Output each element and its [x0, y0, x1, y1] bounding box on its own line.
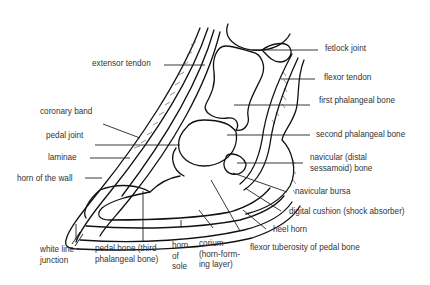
label-laminae: laminae	[48, 153, 77, 164]
label-horn-of-sole-line3: sole	[172, 262, 188, 273]
label-fetlock-joint: fetlock joint	[325, 44, 366, 55]
label-first-phalangeal-bone: first phalangeal bone	[319, 96, 395, 107]
coronary-hair	[134, 42, 296, 194]
label-pedal-bone-line2: phalangeal bone)	[95, 255, 158, 266]
label-heel-horn: heel horn	[273, 225, 307, 236]
label-pedal-bone: pedal bone (third phalangeal bone)	[95, 244, 158, 265]
label-white-line-line2: junction	[40, 256, 74, 267]
sole-layers	[78, 196, 300, 250]
label-white-line-junction: white line junction	[40, 245, 74, 266]
label-coronary-band: coronary band	[40, 107, 92, 118]
label-navicular-bone-line2: sessamoid) bone	[310, 164, 372, 175]
label-digital-cushion: digital cushion (shock absorber)	[289, 207, 405, 218]
label-white-line-line1: white line	[40, 245, 74, 256]
label-horn-of-sole-line1: horn	[172, 241, 188, 252]
first-phalangeal-bone-shape	[205, 46, 263, 130]
label-navicular-bursa: navicular bursa	[295, 187, 351, 198]
label-pedal-joint: pedal joint	[46, 131, 83, 142]
second-phalangeal-bone-shape	[173, 120, 237, 176]
label-navicular-bone: navicular (distal sessamoid) bone	[310, 153, 372, 174]
label-pedal-bone-line1: pedal bone (third	[95, 244, 158, 255]
label-second-phalangeal-bone: second phalangeal bone	[316, 130, 405, 141]
label-navicular-bone-line1: navicular (distal	[310, 153, 372, 164]
label-extensor-tendon: extensor tendon	[92, 59, 151, 70]
label-flexor-tendon: flexor tendon	[324, 73, 371, 84]
label-horn-of-sole: horn of sole	[172, 241, 188, 273]
label-flexor-tuberosity: flexor tuberosity of pedal bone	[250, 243, 360, 254]
label-corium-line2: (horn-form-	[199, 250, 240, 261]
label-corium-line3: ing layer)	[199, 260, 240, 271]
label-horn-of-the-wall: horn of the wall	[17, 174, 73, 185]
label-corium: corium (horn-form- ing layer)	[199, 239, 240, 271]
label-horn-of-sole-line2: of	[172, 252, 188, 263]
label-corium-line1: corium	[199, 239, 240, 250]
